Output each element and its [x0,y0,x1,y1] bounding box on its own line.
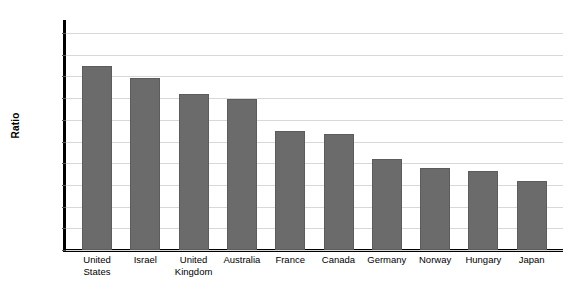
bar[interactable] [82,66,112,250]
y-axis-tick [62,120,66,121]
y-axis-tick [62,33,66,34]
bar-chart: Ratio 0.001.002.003.004.005.006.007.008.… [0,0,569,299]
y-axis-tick [62,163,66,164]
x-axis-tick-label: Japan [498,254,566,266]
y-axis-tick [62,98,66,99]
y-axis-title: Ratio [0,0,30,250]
bar[interactable] [227,99,257,250]
y-axis-tick [62,185,66,186]
x-axis-labels: UnitedStatesIsraelUnitedKingdomAustralia… [66,254,563,299]
gridline [66,55,563,56]
gridline [66,250,563,251]
bar[interactable] [324,134,354,250]
bar[interactable] [130,78,160,250]
bar[interactable] [179,94,209,250]
gridline [66,33,563,34]
y-axis-tick [62,228,66,229]
bar[interactable] [420,168,450,250]
bar[interactable] [517,181,547,250]
y-axis-tick [62,250,66,251]
y-axis-tick [62,55,66,56]
bar[interactable] [468,171,498,250]
y-axis-tick [62,207,66,208]
bar[interactable] [275,131,305,250]
bar[interactable] [372,159,402,250]
y-axis-tick [62,142,66,143]
y-axis-tick [62,76,66,77]
y-axis-title-label: Ratio [10,112,21,138]
plot-area: 0.001.002.003.004.005.006.007.008.009.00… [66,33,563,250]
